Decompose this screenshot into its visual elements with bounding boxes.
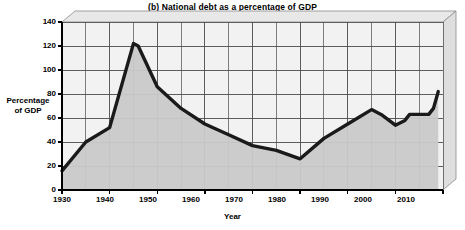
chart-container: (b) National debt as a percentage of GDP… (0, 0, 465, 230)
plot-area (0, 0, 465, 230)
